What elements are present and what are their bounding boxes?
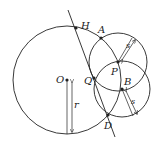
label-s-upper: s — [126, 41, 130, 50]
point-d — [106, 113, 109, 116]
diagram-canvas: H A P Q O B D r s s — [0, 0, 158, 147]
point-o — [65, 78, 68, 81]
point-a — [99, 36, 102, 39]
label-a: A — [97, 24, 105, 35]
label-r: r — [74, 99, 80, 110]
label-d: D — [103, 120, 112, 131]
geometry-diagram: H A P Q O B D r s s — [0, 0, 158, 147]
point-q — [92, 76, 95, 79]
label-h: H — [80, 20, 90, 31]
point-p — [116, 60, 119, 63]
point-h — [74, 26, 77, 29]
label-b: B — [123, 76, 131, 87]
point-b — [120, 87, 123, 90]
label-s-lower: s — [131, 97, 135, 106]
label-o: O — [56, 74, 64, 85]
label-p: P — [110, 66, 118, 77]
label-q: Q — [84, 75, 92, 86]
